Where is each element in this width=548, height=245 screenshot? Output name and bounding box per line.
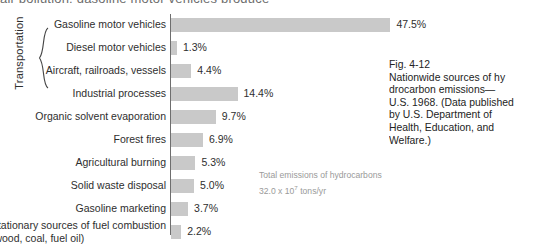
bar-row: Diesel motor vehicles1.3%	[0, 36, 430, 59]
bar-value-label: 47.5%	[396, 13, 426, 36]
bar-segment	[171, 133, 203, 147]
bar-row: Forest fires6.9%	[0, 128, 430, 151]
total-value-suffix: tons/yr	[298, 185, 326, 195]
bar-value-label: 1.3%	[183, 36, 207, 59]
bar-chart: Transportation Gasoline motor vehicles47…	[0, 13, 430, 245]
bar-segment	[171, 18, 390, 32]
bar-row-label: Gasoline marketing	[76, 197, 166, 220]
bar-segment	[171, 41, 177, 55]
caption-line: drocarbon emissions—	[389, 84, 548, 97]
bar-value-label: 2.2%	[187, 220, 211, 243]
total-emissions-line1: Total emissions of hydrocarbons	[259, 170, 439, 182]
caption-body: Nationwide sources of hydrocarbon emissi…	[389, 72, 548, 148]
bar-value-label: 3.7%	[194, 197, 218, 220]
bar-row-label: Organic solvent evaporation	[35, 105, 166, 128]
bar-row-label: Aircraft, railroads, vessels	[46, 59, 166, 82]
bar-segment	[171, 225, 181, 239]
bar-row: Organic solvent evaporation9.7%	[0, 105, 430, 128]
bar-row: Industrial processes14.4%	[0, 82, 430, 105]
bar-value-label: 14.4%	[244, 82, 274, 105]
bar-value-label: 9.7%	[222, 105, 246, 128]
bar-row-label: Industrial processes	[73, 82, 166, 105]
clipped-heading-text: air pollution; gasoline motor vehicles p…	[0, 0, 430, 3]
bar-row-label: Diesel motor vehicles	[66, 36, 166, 59]
bar-segment	[171, 156, 195, 170]
bar-segment	[171, 179, 194, 193]
bar-value-label: 5.3%	[201, 151, 225, 174]
bar-row-label-line2: (wood, coal, fuel oil)	[0, 232, 166, 245]
caption-line: Health, Education, and	[389, 122, 548, 135]
bar-row-label: Solid waste disposal	[71, 174, 166, 197]
caption-fig-number: Fig. 4-12	[389, 59, 548, 72]
bar-row: Gasoline marketing3.7%	[0, 197, 430, 220]
bar-row-label-line1: Stationary sources of fuel combustion	[0, 219, 166, 232]
caption-line: U.S. 1968. (Data published	[389, 97, 548, 110]
bar-row: Stationary sources of fuel combustion(wo…	[0, 220, 430, 243]
bar-row-label: Stationary sources of fuel combustion(wo…	[0, 219, 166, 244]
caption-line: Welfare.)	[389, 135, 548, 148]
bar-segment	[171, 64, 191, 78]
bar-row-label: Forest fires	[113, 128, 166, 151]
total-emissions-line2: 32.0 x 107 tons/yr	[259, 182, 439, 197]
caption-line: by U.S. Department of	[389, 109, 548, 122]
total-value-prefix: 32.0 x 10	[259, 185, 294, 195]
bar-value-label: 5.0%	[200, 174, 224, 197]
bar-value-label: 4.4%	[197, 59, 221, 82]
total-emissions-annotation: Total emissions of hydrocarbons 32.0 x 1…	[259, 170, 439, 197]
bar-segment	[171, 87, 238, 101]
bar-row: Gasoline motor vehicles47.5%	[0, 13, 430, 36]
figure-caption: Fig. 4-12 Nationwide sources of hydrocar…	[389, 59, 548, 147]
bar-value-label: 6.9%	[209, 128, 233, 151]
bar-row: Aircraft, railroads, vessels4.4%	[0, 59, 430, 82]
bar-row-label: Gasoline motor vehicles	[54, 13, 166, 36]
bar-segment	[171, 110, 216, 124]
bar-segment	[171, 202, 188, 216]
caption-line: Nationwide sources of hy	[389, 72, 548, 85]
bar-row-label: Agricultural burning	[76, 151, 166, 174]
